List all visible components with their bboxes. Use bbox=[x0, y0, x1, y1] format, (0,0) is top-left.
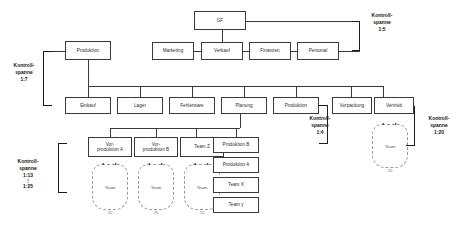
connector-drop-vorprod-b bbox=[156, 128, 157, 137]
team-bubble-vertrieb-count: 20 bbox=[372, 168, 408, 173]
kontrollspanne-7-line1: Kontroll- bbox=[4, 62, 44, 69]
node-vertrieb-label: Vertrieb bbox=[385, 103, 403, 109]
bracket-kontrollspanne-13-25 bbox=[58, 143, 67, 193]
label-kontrollspanne-7: Kontroll- spanne 1:7 bbox=[4, 62, 44, 83]
team-bubble-vertrieb-label: Team bbox=[373, 144, 407, 149]
node-team-x[interactable]: Team X bbox=[213, 177, 259, 193]
kontrollspanne-20-line2: spanne bbox=[417, 122, 461, 129]
node-marketing-label: Marketing bbox=[162, 48, 185, 54]
kontrollspanne-range-line1: Kontroll- bbox=[6, 158, 50, 165]
node-produktion-a[interactable]: Produktion A bbox=[213, 157, 259, 173]
node-gf-label: GF bbox=[216, 18, 224, 24]
arrow-right-icon-z bbox=[207, 163, 209, 165]
kontrollspanne-5-line2: spanne bbox=[360, 19, 404, 26]
kontrollspanne-7-ratio: 1:7 bbox=[4, 76, 44, 83]
connector-row4-rail bbox=[110, 128, 240, 129]
node-personal[interactable]: Personal bbox=[297, 42, 339, 60]
node-vorproduktion-b[interactable]: Vor- produktion B bbox=[134, 137, 178, 157]
org-chart-diagram: GF Produktion Marketing Verkauf Finanzen… bbox=[0, 0, 466, 234]
connector-drop-produktion3 bbox=[296, 86, 297, 97]
node-vorproduktion-a-label-line2: produktion A bbox=[96, 147, 124, 152]
arrow-left-icon-vertrieb bbox=[382, 123, 384, 125]
kontrollspanne-4-line1: Kontroll- bbox=[298, 115, 342, 122]
node-planung[interactable]: Planung bbox=[221, 97, 267, 114]
connector-gf-right bbox=[246, 21, 360, 22]
node-lager-label: Lager bbox=[133, 103, 147, 109]
node-produktion-b-label: Produktion B bbox=[222, 142, 251, 148]
kontrollspanne-7-line2: spanne bbox=[4, 69, 44, 76]
connector-gf-down bbox=[222, 30, 223, 39]
kontrollspanne-range-ratio-high: 1:25 bbox=[6, 183, 50, 190]
connector-produktion-left-in bbox=[51, 51, 65, 52]
team-bubble-b-label: Team bbox=[139, 185, 173, 190]
node-gf[interactable]: GF bbox=[194, 11, 246, 30]
bracket-kontrollspanne-7 bbox=[43, 51, 52, 106]
team-bubble-vorproduktion-b: Team bbox=[138, 164, 174, 210]
team-bubble-a-label: Team bbox=[93, 185, 127, 190]
team-bubble-vertrieb: Team bbox=[372, 124, 408, 168]
node-vertrieb[interactable]: Vertrieb bbox=[374, 97, 414, 114]
node-produktion-row3[interactable]: Produktion bbox=[273, 97, 319, 114]
kontrollspanne-4-line2: spanne bbox=[298, 122, 342, 129]
node-einkauf[interactable]: Einkauf bbox=[65, 97, 111, 114]
bracket-kontrollspanne-5 bbox=[352, 21, 360, 51]
node-produktion-top-label: Produktion bbox=[76, 48, 100, 54]
connector-drop-vertrieb bbox=[383, 86, 384, 97]
node-finanzen-label: Finanzen bbox=[259, 48, 280, 54]
connector-drop-vorprod-a bbox=[110, 128, 111, 137]
node-finanzen[interactable]: Finanzen bbox=[249, 42, 291, 60]
node-marketing[interactable]: Marketing bbox=[152, 42, 194, 60]
node-lager[interactable]: Lager bbox=[117, 97, 163, 114]
node-personal-label: Personal bbox=[308, 48, 329, 54]
node-fehlerware[interactable]: Fehlerware bbox=[169, 97, 215, 114]
connector-drop-planung bbox=[244, 86, 245, 97]
kontrollspanne-20-line1: Kontroll- bbox=[417, 115, 461, 122]
kontrollspanne-5-ratio: 1:5 bbox=[360, 26, 404, 33]
node-vorproduktion-a[interactable]: Vor- produktion A bbox=[88, 137, 132, 157]
connector-drop-fehlerware bbox=[192, 86, 193, 97]
connector-drop-einkauf bbox=[88, 86, 89, 97]
arrow-right-icon-a bbox=[115, 163, 117, 165]
arrow-right-icon-b bbox=[161, 163, 163, 165]
node-fehlerware-label: Fehlerware bbox=[179, 103, 204, 109]
connector-drop-prodb bbox=[236, 128, 237, 137]
team-bubble-vorproduktion-a: Team bbox=[92, 164, 128, 210]
team-bubble-b-count: 25 bbox=[138, 210, 174, 215]
label-kontrollspanne-20: Kontroll- spanne 1:20 bbox=[417, 115, 461, 136]
label-kontrollspanne-4: Kontroll- spanne 1:4 bbox=[298, 115, 342, 136]
node-verkauf-label: Verkauf bbox=[213, 48, 231, 54]
connector-drop-lager bbox=[140, 86, 141, 97]
node-produktion-b[interactable]: Produktion B bbox=[213, 137, 259, 153]
arrow-left-icon-a bbox=[102, 163, 104, 165]
node-produktion-row3-label: Produktion bbox=[284, 103, 308, 109]
kontrollspanne-20-ratio: 1:20 bbox=[417, 129, 461, 136]
node-verpackung-label: Verpackung bbox=[339, 103, 366, 109]
node-planung-label: Planung bbox=[234, 103, 253, 109]
label-kontrollspanne-13-25: Kontroll- spanne 1:13 ⋮ 1:25 bbox=[6, 158, 50, 190]
arrow-left-icon-b bbox=[148, 163, 150, 165]
kontrollspanne-5-line1: Kontroll- bbox=[360, 12, 404, 19]
node-team-z-label: Team Z bbox=[193, 144, 211, 150]
kontrollspanne-range-line2: spanne bbox=[6, 165, 50, 172]
team-bubble-z-count: 13 bbox=[184, 210, 220, 215]
node-einkauf-label: Einkauf bbox=[79, 103, 97, 109]
node-verpackung[interactable]: Verpackung bbox=[332, 97, 372, 114]
connector-row3-rail bbox=[88, 86, 383, 87]
node-produktion-top[interactable]: Produktion bbox=[65, 41, 111, 60]
node-team-y-label: Team y bbox=[227, 202, 244, 208]
kontrollspanne-4-ratio: 1:4 bbox=[298, 129, 342, 136]
arrow-right-icon-vertrieb bbox=[395, 123, 397, 125]
label-kontrollspanne-5: Kontroll- spanne 1:5 bbox=[360, 12, 404, 33]
arrow-left-icon-z bbox=[194, 163, 196, 165]
node-vorproduktion-b-label-line2: produktion B bbox=[142, 147, 170, 152]
connector-drop-teamz bbox=[196, 128, 197, 137]
node-verkauf[interactable]: Verkauf bbox=[201, 42, 243, 60]
node-produktion-a-label: Produktion A bbox=[222, 162, 251, 168]
team-bubble-a-count: 20 bbox=[92, 210, 128, 215]
connector-produktion-down bbox=[88, 60, 89, 86]
connector-drop-verpackung bbox=[351, 86, 352, 97]
node-team-x-label: Team X bbox=[227, 182, 245, 188]
